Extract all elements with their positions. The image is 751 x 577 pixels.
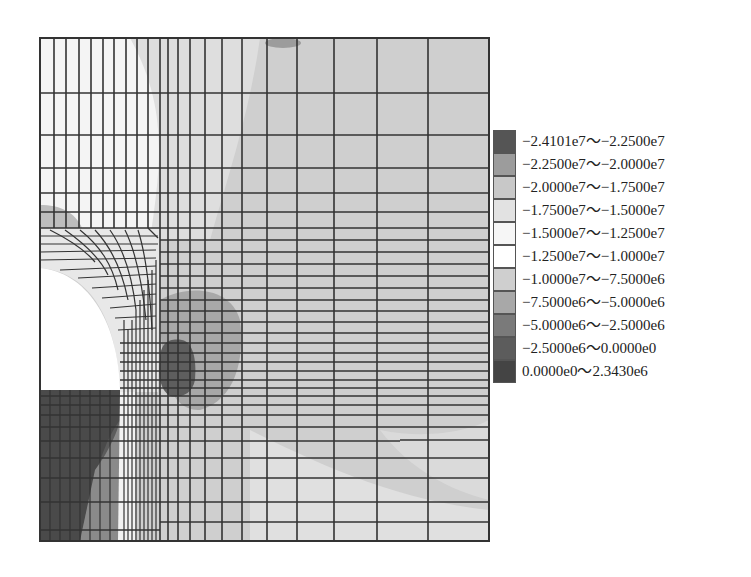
legend-entry: −2.4101e7～−2.2500e7 — [493, 130, 743, 153]
legend-label: −2.5000e6～0.0000e0 — [522, 338, 656, 358]
legend-swatch — [493, 176, 516, 199]
legend-swatch — [493, 360, 516, 383]
legend-label: −2.0000e7～−1.7500e7 — [522, 177, 665, 197]
legend-swatch — [493, 268, 516, 291]
legend-label: −1.2500e7～−1.0000e7 — [522, 246, 665, 266]
legend-entry: −1.0000e7～−7.5000e6 — [493, 268, 743, 291]
legend-entry: −1.5000e7～−1.2500e7 — [493, 222, 743, 245]
contour-fills — [40, 38, 489, 541]
legend-label: −5.0000e6～−2.5000e6 — [522, 315, 665, 335]
legend-label: −2.4101e7～−2.2500e7 — [522, 131, 665, 151]
legend-swatch — [493, 245, 516, 268]
contour-figure: −2.4101e7～−2.2500e7 −2.2500e7～−2.0000e7 … — [0, 0, 751, 577]
legend-swatch — [493, 222, 516, 245]
legend-entry: −2.5000e6～0.0000e0 — [493, 337, 743, 360]
legend-swatch — [493, 337, 516, 360]
legend-entry: −2.2500e7～−2.0000e7 — [493, 153, 743, 176]
legend-entry: −1.2500e7～−1.0000e7 — [493, 245, 743, 268]
legend-label: 0.0000e0～2.3430e6 — [522, 361, 648, 381]
legend-label: −1.7500e7～−1.5000e7 — [522, 200, 665, 220]
legend-entry: 0.0000e0～2.3430e6 — [493, 360, 743, 383]
legend-swatch — [493, 314, 516, 337]
legend-entry: −7.5000e6～−5.0000e6 — [493, 291, 743, 314]
legend-swatch — [493, 130, 516, 153]
legend-swatch — [493, 153, 516, 176]
legend-label: −1.5000e7～−1.2500e7 — [522, 223, 665, 243]
legend-entry: −2.0000e7～−1.7500e7 — [493, 176, 743, 199]
legend-label: −1.0000e7～−7.5000e6 — [522, 269, 665, 289]
legend-swatch — [493, 291, 516, 314]
legend-label: −7.5000e6～−5.0000e6 — [522, 292, 665, 312]
legend-swatch — [493, 199, 516, 222]
legend-entry: −1.7500e7～−1.5000e7 — [493, 199, 743, 222]
legend-entry: −5.0000e6～−2.5000e6 — [493, 314, 743, 337]
legend-label: −2.2500e7～−2.0000e7 — [522, 154, 665, 174]
